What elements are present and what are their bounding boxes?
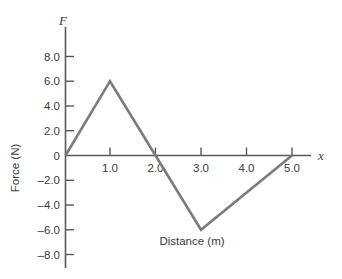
y-tick-label-neg8: –8.0	[38, 249, 60, 261]
x-tick-label-4: 4.0	[239, 162, 255, 174]
x-axis-symbol-label: x	[317, 148, 324, 163]
force-vs-distance-chart: 8.0 6.0 4.0 2.0 0 –2.0 –4.0 –6.0 –8.0 1.…	[0, 0, 342, 279]
x-tick-label-1: 1.0	[102, 162, 118, 174]
y-tick-label-neg4: –4.0	[38, 199, 60, 211]
y-tick-label-8: 8.0	[44, 51, 60, 63]
y-tick-label-4: 4.0	[44, 100, 60, 112]
x-axis-title: Distance (m)	[159, 235, 224, 247]
y-tick-label-0: 0	[54, 150, 60, 162]
x-tick-label-3: 3.0	[193, 162, 209, 174]
y-axis-symbol-label: F	[58, 13, 68, 28]
y-tick-label-neg2: –2.0	[38, 174, 60, 186]
y-tick-label-neg6: –6.0	[38, 224, 60, 236]
y-tick-label-6: 6.0	[44, 75, 60, 87]
y-tick-label-2: 2.0	[44, 125, 60, 137]
x-tick-label-5: 5.0	[284, 162, 300, 174]
y-axis-title: Force (N)	[9, 144, 21, 193]
